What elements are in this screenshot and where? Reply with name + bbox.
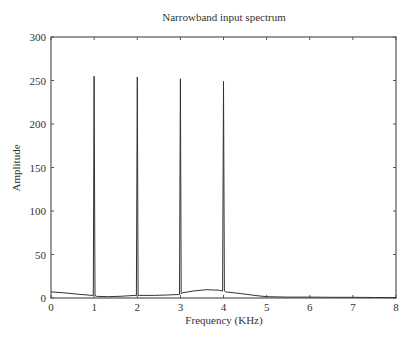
y-tick-label: 150 <box>30 162 47 174</box>
y-tick-label: 300 <box>30 31 47 43</box>
y-tick-label: 50 <box>35 249 47 261</box>
x-tick-label: 2 <box>135 301 141 313</box>
x-tick-label: 1 <box>91 301 97 313</box>
x-tick-label: 8 <box>393 301 399 313</box>
chart-title: Narrowband input spectrum <box>162 11 286 23</box>
x-tick-label: 0 <box>48 301 54 313</box>
y-axis-ticks: 050100150200250300 <box>30 31 397 304</box>
x-tick-label: 7 <box>350 301 356 313</box>
y-tick-label: 100 <box>30 205 47 217</box>
x-tick-label: 3 <box>178 301 184 313</box>
x-tick-label: 5 <box>264 301 270 313</box>
x-tick-label: 4 <box>221 301 227 313</box>
y-axis-label: Amplitude <box>10 144 22 191</box>
x-tick-label: 6 <box>307 301 313 313</box>
series-group <box>51 76 396 297</box>
spectrum-chart: Narrowband input spectrum Frequency (KHz… <box>0 0 417 340</box>
y-tick-label: 250 <box>30 75 47 87</box>
spectrum-line <box>51 76 396 297</box>
x-axis-label: Frequency (KHz) <box>185 314 263 327</box>
y-tick-label: 0 <box>41 292 47 304</box>
y-tick-label: 200 <box>30 118 47 130</box>
